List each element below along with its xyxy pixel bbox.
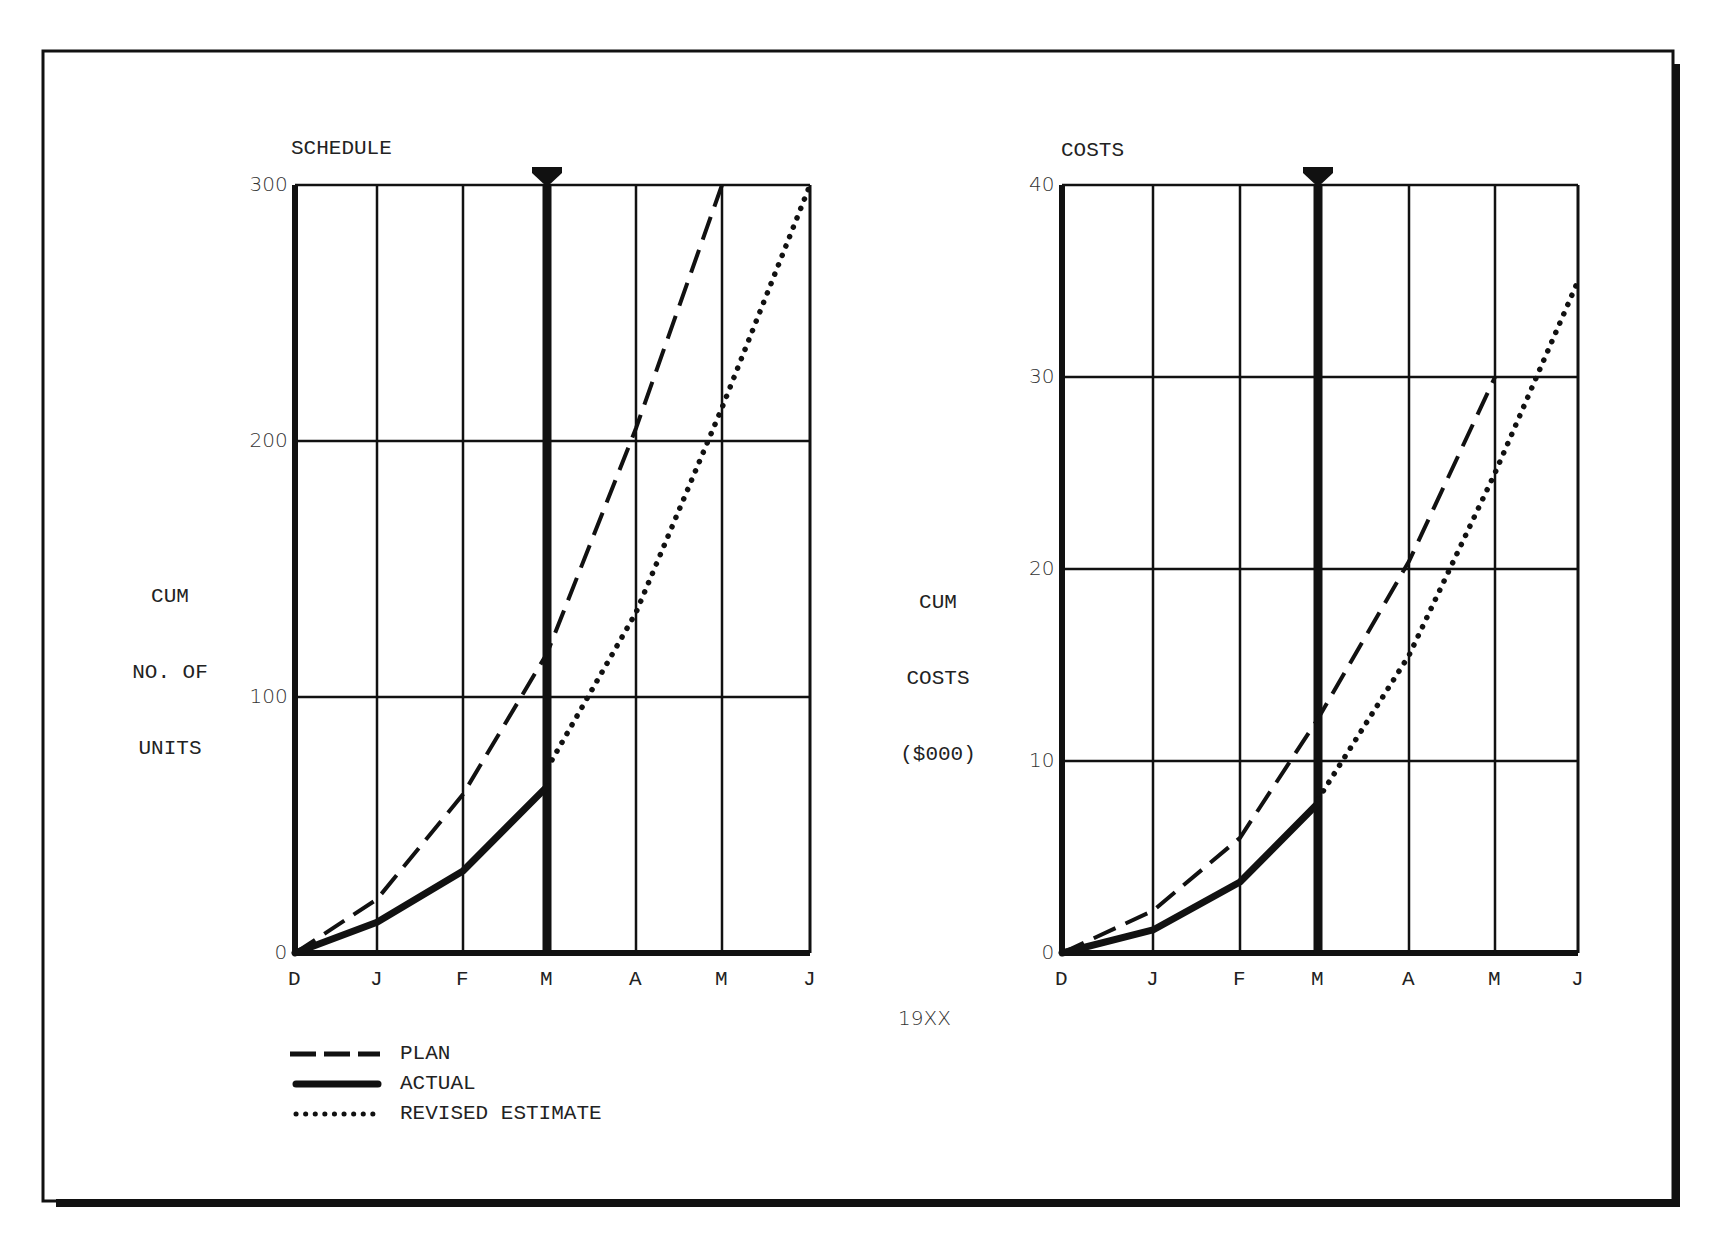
y-axis-label-line: COSTS (888, 666, 988, 691)
y-axis-label-line: CUM (120, 584, 220, 609)
x-tick-label: J (1571, 967, 1584, 992)
y-axis-label-schedule: CUM NO. OF UNITS (120, 534, 220, 786)
y-tick-label: 300 (250, 172, 288, 196)
y-tick-label: 200 (250, 428, 288, 452)
legend-plan-label: PLAN (400, 1041, 450, 1066)
series-revised-estimate (1318, 281, 1578, 799)
costs-chart (1062, 167, 1578, 953)
legend-actual-label: ACTUAL (400, 1071, 476, 1096)
x-tick-label: J (803, 967, 816, 992)
y-tick-label: 100 (250, 684, 288, 708)
y-tick-label: 0 (275, 940, 288, 964)
y-tick-label: 0 (1042, 940, 1055, 964)
chart-title-schedule: SCHEDULE (291, 136, 392, 161)
x-tick-label: J (370, 967, 383, 992)
schedule-chart (295, 167, 810, 953)
legend-samples (290, 1054, 380, 1114)
y-tick-label: 10 (1029, 748, 1054, 772)
series-plan (295, 185, 722, 953)
y-axis-label-line: UNITS (120, 736, 220, 761)
y-axis-label-line: ($000) (888, 742, 988, 767)
x-tick-label: A (1402, 967, 1415, 992)
x-tick-label: D (288, 967, 301, 992)
series-revised-estimate (547, 185, 810, 769)
series-plan (1062, 377, 1495, 953)
y-tick-label: 20 (1029, 556, 1054, 580)
y-axis-label-line: NO. OF (120, 660, 220, 685)
outer-frame (43, 51, 1673, 1201)
chart-title-costs: COSTS (1061, 138, 1124, 163)
y-tick-label: 30 (1029, 364, 1054, 388)
y-tick-label: 40 (1029, 172, 1054, 196)
legend-revised-label: REVISED ESTIMATE (400, 1101, 602, 1126)
x-tick-label: F (1233, 967, 1246, 992)
frame-shadow-bottom (56, 1199, 1680, 1207)
x-tick-label: D (1055, 967, 1068, 992)
y-axis-label-costs: CUM COSTS ($000) (888, 540, 988, 792)
x-tick-label: M (1311, 967, 1324, 992)
x-axis-year-label: 19XX (898, 1006, 951, 1030)
x-tick-label: M (715, 967, 728, 992)
y-axis-label-line: CUM (888, 590, 988, 615)
x-tick-label: J (1146, 967, 1159, 992)
frame-shadow-right (1672, 64, 1680, 1207)
x-tick-label: F (456, 967, 469, 992)
x-tick-label: A (629, 967, 642, 992)
x-tick-label: M (540, 967, 553, 992)
x-tick-label: M (1488, 967, 1501, 992)
